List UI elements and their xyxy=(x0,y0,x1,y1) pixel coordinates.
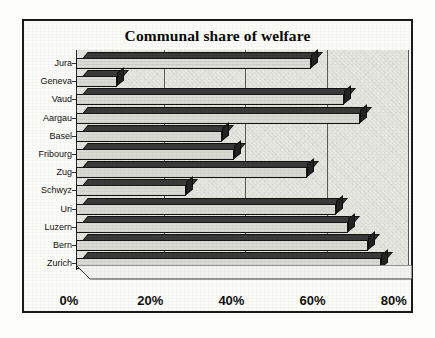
bar-jura xyxy=(76,52,317,70)
y-axis-label-vaud: Vaud xyxy=(52,94,72,104)
chart-screenshot: Communal share of welfare JuraGenevaVaud… xyxy=(0,0,435,338)
y-axis-label-basel: Basel xyxy=(49,131,72,141)
bar-geneva xyxy=(76,70,123,88)
bar-front-face xyxy=(76,149,234,160)
bar-uri xyxy=(76,198,342,216)
bar-zug xyxy=(76,161,313,179)
x-axis-labels: 0%20%40%60%80% xyxy=(24,293,415,315)
bar-front-face xyxy=(76,204,336,215)
bar-bern xyxy=(76,234,374,252)
y-axis-label-jura: Jura xyxy=(54,58,72,68)
bar-front-face xyxy=(76,222,348,233)
bar-front-face xyxy=(76,240,368,251)
bar-basel xyxy=(76,125,228,143)
x-axis-label-0: 0% xyxy=(60,293,79,308)
y-axis-label-uri: Uri xyxy=(61,204,73,214)
y-axis-label-zug: Zug xyxy=(56,167,72,177)
y-axis-labels: JuraGenevaVaudAargauBaselFribourgZugSchw… xyxy=(24,21,76,258)
y-axis-label-aargau: Aargau xyxy=(43,113,72,123)
bar-luzern xyxy=(76,216,354,234)
bar-front-face xyxy=(76,94,344,105)
x-axis-label-40: 40% xyxy=(218,293,244,308)
chart-title: Communal share of welfare xyxy=(24,27,411,45)
y-axis-label-bern: Bern xyxy=(53,240,72,250)
bar-vaud xyxy=(76,88,350,106)
plot-area xyxy=(76,50,408,287)
bar-end-cap xyxy=(344,86,351,105)
y-axis-label-schwyz: Schwyz xyxy=(41,185,72,195)
bar-front-face xyxy=(76,131,222,142)
bar-schwyz xyxy=(76,179,192,197)
plot-floor xyxy=(76,265,408,287)
bar-fribourg xyxy=(76,143,240,161)
bar-end-cap xyxy=(307,158,314,177)
x-axis-label-20: 20% xyxy=(137,293,163,308)
y-axis-label-luzern: Luzern xyxy=(44,222,72,232)
y-axis-label-geneva: Geneva xyxy=(40,76,72,86)
bar-aargau xyxy=(76,107,366,125)
bar-series xyxy=(76,50,408,270)
x-axis-label-80: 80% xyxy=(381,293,407,308)
bar-front-face xyxy=(76,185,186,196)
bar-front-face xyxy=(76,76,117,87)
chart-frame: Communal share of welfare JuraGenevaVaud… xyxy=(22,19,413,313)
x-axis-label-60: 60% xyxy=(300,293,326,308)
bar-front-face xyxy=(76,113,360,124)
bar-end-cap xyxy=(311,49,318,68)
bar-front-face xyxy=(76,58,311,69)
y-axis-label-zurich: Zurich xyxy=(47,258,72,268)
y-axis-label-fribourg: Fribourg xyxy=(38,149,72,159)
